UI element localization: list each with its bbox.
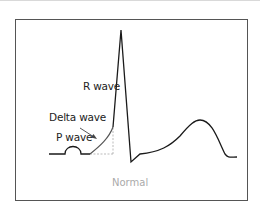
delta-wave-trace — [90, 127, 113, 154]
qrs-t-trace — [113, 30, 237, 162]
p-wave-label: P wave — [56, 131, 92, 143]
dashed-reference-lines — [90, 127, 113, 154]
diagram-caption: Normal — [112, 177, 148, 188]
r-wave-label: R wave — [83, 80, 120, 92]
delta-wave-label: Delta wave — [49, 111, 106, 123]
p-wave-trace — [49, 147, 90, 155]
